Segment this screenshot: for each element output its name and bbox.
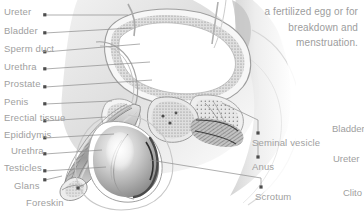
label-glans: Glans bbox=[14, 180, 40, 191]
label-scrotum: Scrotum bbox=[255, 191, 291, 202]
label-prostate: Prostate bbox=[4, 78, 41, 89]
label-epididymis: Epididymis bbox=[4, 129, 51, 140]
blurb-line-1: a fertilized egg or for bbox=[208, 4, 358, 20]
label-urethra-lower: Urethra bbox=[11, 145, 44, 156]
label-anus: Anus bbox=[252, 161, 274, 172]
label-testicles: Testicles bbox=[4, 162, 42, 173]
label-seminal-vesicle: Seminal vesicle bbox=[252, 137, 320, 148]
label-ureter: Ureter bbox=[4, 6, 31, 17]
label-foreskin: Foreskin bbox=[26, 197, 64, 208]
label-urethra-upper: Urethra bbox=[4, 61, 37, 72]
blurb-line-2: breakdown and bbox=[208, 20, 358, 36]
description-paragraph: a fertilized egg or for breakdown and me… bbox=[208, 4, 358, 51]
label-erectial-tissue: Erectial tissue bbox=[4, 112, 65, 123]
label-clitoris: Clito bbox=[343, 187, 362, 198]
label-penis: Penis bbox=[4, 96, 29, 107]
label-bladder: Bladder bbox=[4, 25, 38, 36]
label-sperm-duct: Sperm duct bbox=[4, 43, 54, 54]
label-bladder-female: Bladder bbox=[332, 123, 364, 134]
blurb-line-3: menstruation. bbox=[208, 35, 358, 51]
anatomy-figure: Ureter Bladder Sperm duct Urethra Prosta… bbox=[0, 0, 364, 212]
label-ureter-female: Ureter bbox=[333, 153, 359, 164]
